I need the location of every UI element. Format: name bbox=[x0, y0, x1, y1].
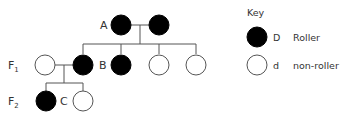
parental-generation: A bbox=[100, 15, 169, 44]
individual-c-circle bbox=[73, 91, 93, 111]
key-legend: Key D Roller d non-roller bbox=[247, 7, 339, 75]
f1-nonroller-circle-2 bbox=[186, 55, 206, 75]
generation-label-f1: F1 bbox=[8, 59, 19, 74]
parental-mate-circle bbox=[149, 15, 169, 35]
individual-b-circle bbox=[111, 55, 131, 75]
f1-roller-circle bbox=[73, 55, 93, 75]
label-c: C bbox=[60, 95, 68, 108]
f1-nonroller-circle-1 bbox=[149, 55, 169, 75]
pedigree-diagram: A F1 B F2 C Key D Roller d no bbox=[0, 0, 343, 118]
key-allele-recessive: d bbox=[273, 60, 279, 71]
key-allele-dominant: D bbox=[273, 32, 280, 43]
label-a: A bbox=[100, 19, 108, 32]
generation-label-f2: F2 bbox=[8, 95, 19, 110]
f2-generation: F2 C bbox=[8, 83, 93, 111]
individual-a-circle bbox=[111, 15, 131, 35]
key-roller-symbol bbox=[247, 27, 267, 47]
f1-sibship bbox=[83, 44, 196, 54]
f1-generation: F1 B bbox=[8, 55, 206, 83]
key-nonroller-symbol bbox=[247, 55, 267, 75]
f2-roller-circle bbox=[36, 91, 56, 111]
key-roller-label: Roller bbox=[293, 32, 320, 43]
key-title: Key bbox=[247, 7, 265, 18]
label-b: B bbox=[99, 59, 107, 72]
f1-mate-circle bbox=[35, 55, 55, 75]
key-nonroller-label: non-roller bbox=[293, 60, 339, 71]
